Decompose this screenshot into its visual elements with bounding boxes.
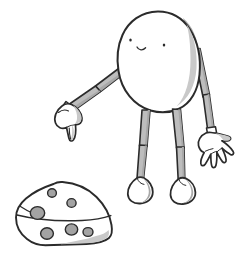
illustration-canvas: [0, 0, 242, 258]
cheese-wedge: [16, 182, 112, 245]
cheese-hole: [48, 189, 57, 197]
right-eye: [163, 44, 166, 47]
cheese-hole: [30, 207, 44, 220]
right-hand: [198, 127, 233, 168]
right-foot: [170, 178, 195, 204]
head: [118, 12, 200, 113]
left-eye: [129, 39, 132, 42]
character: [55, 12, 234, 205]
cheese-hole: [41, 228, 54, 240]
cheese-hole: [83, 228, 93, 237]
left-leg: [137, 110, 150, 179]
cheese-hole: [65, 224, 77, 235]
left-foot: [128, 177, 153, 203]
illustration-svg: [0, 0, 242, 258]
cheese-hole: [67, 199, 76, 208]
right-leg: [173, 109, 185, 180]
